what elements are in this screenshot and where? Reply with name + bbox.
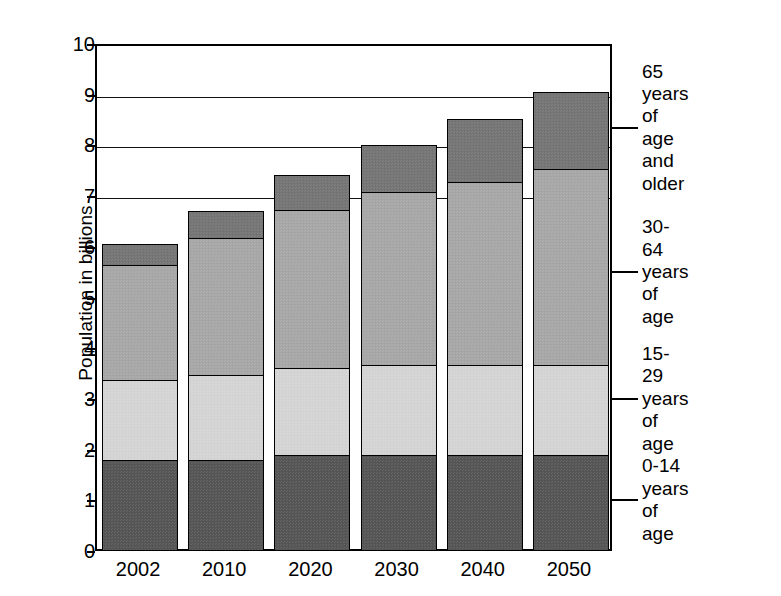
bar-2030: [361, 145, 437, 549]
bar-segment: [274, 175, 350, 210]
bar-2002: [102, 244, 178, 549]
bar-segment: [533, 365, 609, 456]
y-axis-tick-label: 9: [41, 85, 105, 105]
y-axis-tick-mark: [87, 348, 95, 350]
y-axis-tick-mark: [87, 298, 95, 300]
y-axis-tick-label: 3: [41, 389, 105, 409]
bar-2050: [533, 92, 609, 550]
legend-tick-mark: [612, 271, 638, 273]
legend-tick-mark: [612, 398, 638, 400]
legend-label: 15-29 years of age: [642, 343, 688, 455]
legend-label: 30-64 years of age: [642, 216, 688, 328]
y-axis-tick-mark: [87, 145, 95, 147]
bar-2010: [188, 211, 264, 549]
bar-segment: [188, 459, 264, 550]
stacked-bar-chart: Population in billions 012345678910 2002…: [0, 0, 781, 596]
legend-label: 65 years of age and older: [642, 60, 688, 194]
y-axis-tick-mark: [87, 247, 95, 249]
bar-segment: [361, 191, 437, 366]
bar-segment: [102, 244, 178, 267]
y-axis-tick-label: 2: [41, 440, 105, 460]
bar-segment: [102, 459, 178, 550]
plot-area: [95, 44, 612, 551]
bar-segment: [361, 365, 437, 456]
bar-segment: [274, 209, 350, 369]
y-axis-tick-label: 5: [41, 288, 105, 308]
legend-tick-mark: [612, 127, 638, 129]
bar-segment: [447, 119, 523, 182]
bar-segment: [274, 367, 350, 456]
x-axis-tick-label: 2002: [116, 558, 161, 581]
x-axis-tick-label: 2040: [461, 558, 506, 581]
x-axis-tick-label: 2010: [202, 558, 247, 581]
bar-segment: [533, 168, 609, 366]
bar-segment: [447, 181, 523, 366]
legend: 65 years of age and older30-64 years of …: [612, 44, 781, 551]
y-axis-tick-mark: [87, 196, 95, 198]
bar-segment: [533, 454, 609, 550]
bar-segment: [188, 211, 264, 239]
bar-2040: [447, 119, 523, 549]
bar-segment: [188, 375, 264, 461]
bar-segment: [447, 365, 523, 456]
y-axis-tick-mark: [87, 500, 95, 502]
bar-2020: [274, 175, 350, 549]
bar-segment: [447, 454, 523, 550]
x-axis-tick-label: 2020: [288, 558, 333, 581]
bar-segment: [188, 237, 264, 376]
legend-tick-mark: [612, 499, 638, 501]
x-axis-tick-label: 2050: [547, 558, 592, 581]
y-axis-tick-label: 6: [41, 237, 105, 257]
bar-segment: [102, 380, 178, 461]
y-axis-tick-label: 1: [41, 490, 105, 510]
bar-segment: [274, 454, 350, 550]
bar-group: [97, 46, 610, 549]
y-axis-tick-mark: [87, 551, 95, 553]
y-axis-tick-mark: [87, 450, 95, 452]
bar-segment: [102, 265, 178, 382]
y-axis-tick-label: 8: [41, 135, 105, 155]
x-axis-tick-label: 2030: [374, 558, 419, 581]
legend-label: 0-14 years of age: [642, 455, 688, 545]
y-axis-tick-mark: [87, 44, 95, 46]
x-axis-labels: 200220102020203020402050: [95, 558, 612, 588]
y-axis-tick-mark: [87, 399, 95, 401]
y-axis-tick-mark: [87, 95, 95, 97]
y-axis-tick-label: 4: [41, 338, 105, 358]
bar-segment: [533, 92, 609, 171]
y-axis-tick-label: 7: [41, 186, 105, 206]
y-axis-tick-label: 10: [41, 34, 105, 54]
bar-segment: [361, 454, 437, 550]
bar-segment: [361, 145, 437, 193]
